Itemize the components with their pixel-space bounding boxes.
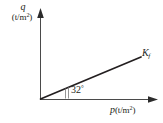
x-axis-label: p(t/m2) (110, 105, 135, 115)
y-axis-units-close: ) (29, 12, 32, 22)
degree-sign-icon: ° (81, 84, 84, 92)
kf-line (41, 57, 142, 99)
kf-subscript: f (148, 52, 150, 60)
y-axis-units: (t/m2) (4, 12, 40, 23)
y-axis-units-open: (t/m (12, 12, 27, 22)
x-axis-units-close: ) (132, 105, 135, 115)
x-axis-units-open: (t/m (115, 105, 130, 115)
kf-line-diagram: q (t/m2) p(t/m2) Kf 32° (0, 0, 163, 123)
y-axis-label: q (t/m2) (4, 2, 40, 23)
y-axis-symbol: q (6, 2, 40, 12)
kf-line-label: Kf (142, 48, 150, 61)
angle-value: 32 (71, 84, 81, 95)
angle-label: 32° (71, 83, 84, 95)
x-axis-arrowhead (148, 96, 158, 103)
